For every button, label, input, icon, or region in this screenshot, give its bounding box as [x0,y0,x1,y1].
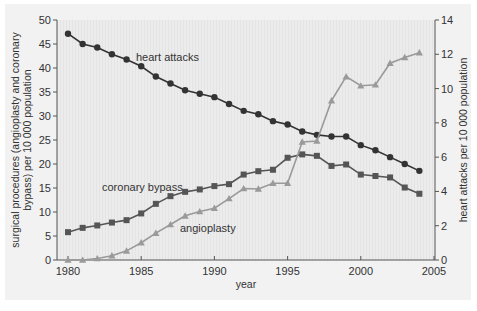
data-point-circle [270,118,276,124]
y-axis-title-left: surgical procedures (angioplasty and cor… [9,32,33,248]
data-point-square [65,229,71,235]
data-point-circle [240,108,246,114]
data-point-square [372,173,378,179]
data-point-square [387,174,393,180]
y-tick-label-left: 30 [39,110,51,122]
data-point-circle [226,101,232,107]
data-point-square [402,185,408,191]
y-tick-label-left: 50 [39,14,51,26]
series-label-coronary-bypass: coronary bypass [102,181,183,193]
y-tick-label-right: 4 [441,185,447,197]
data-point-square [299,151,305,157]
data-point-circle [284,121,290,127]
data-point-square [182,189,188,195]
data-point-circle [358,142,364,148]
data-point-square [167,193,173,199]
y-tick-label-right: 10 [441,83,453,95]
data-point-circle [197,91,203,97]
data-point-circle [387,154,393,160]
x-tick-label: 2005 [422,265,446,277]
data-point-circle [94,44,100,50]
data-point-square [109,220,115,226]
data-point-circle [109,51,115,57]
x-tick-label: 1985 [129,265,153,277]
data-point-square [255,168,261,174]
y-tick-label-left: 40 [39,62,51,74]
data-point-square [138,210,144,216]
x-tick-label: 1980 [56,265,80,277]
y-tick-label-left: 15 [39,182,51,194]
y-tick-label-left: 20 [39,158,51,170]
data-point-square [416,191,422,197]
data-point-circle [79,41,85,47]
data-point-circle [182,87,188,93]
data-point-square [358,172,364,178]
y-tick-label-left: 10 [39,206,51,218]
data-point-square [241,172,247,178]
x-axis-title: year [236,278,257,290]
data-point-circle [123,56,129,62]
series-label-angioplasty: angioplasty [180,222,236,234]
data-point-square [226,181,232,187]
data-point-square [153,201,159,207]
x-tick-label: 1995 [275,265,299,277]
data-point-square [94,222,100,228]
data-point-circle [343,133,349,139]
y-tick-label-left: 45 [39,38,51,50]
data-point-circle [402,161,408,167]
data-point-circle [372,147,378,153]
y-axis-title-right: heart attacks per 10 000 population [457,58,469,223]
y-tick-label-right: 2 [441,220,447,232]
data-point-circle [167,80,173,86]
data-point-square [124,217,130,223]
data-point-square [285,155,291,161]
y-tick-label-right: 8 [441,117,447,129]
y-tick-label-right: 14 [441,14,453,26]
data-point-square [270,167,276,173]
data-point-square [329,163,335,169]
data-point-circle [65,31,71,37]
data-point-circle [138,63,144,69]
data-point-circle [153,73,159,79]
data-point-circle [255,111,261,117]
y-tick-label-right: 6 [441,151,447,163]
line-chart: 0510152025303540455002468101214198019851… [0,0,477,311]
data-point-square [80,225,86,231]
data-point-circle [211,94,217,100]
series-label-heart-attacks: heart attacks [136,51,199,63]
data-point-circle [328,133,334,139]
data-point-circle [416,168,422,174]
y-tick-label-left: 0 [45,254,51,266]
y-tick-label-left: 25 [39,134,51,146]
x-tick-label: 2000 [349,265,373,277]
data-point-circle [299,128,305,134]
x-tick-label: 1990 [202,265,226,277]
data-point-square [343,161,349,167]
y-tick-label-left: 35 [39,86,51,98]
data-point-square [197,186,203,192]
data-point-square [314,153,320,159]
data-point-square [211,183,217,189]
y-tick-label-left: 5 [45,230,51,242]
y-tick-label-right: 12 [441,48,453,60]
